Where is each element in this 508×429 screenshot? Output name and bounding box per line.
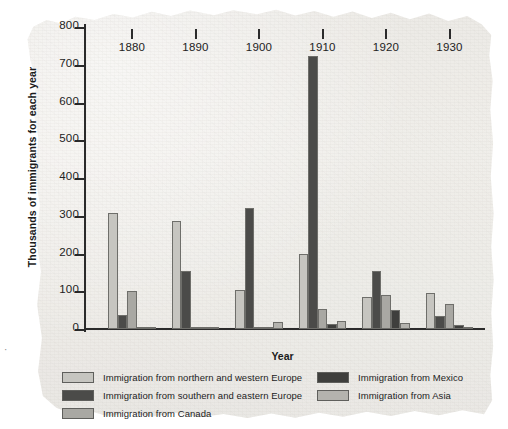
legend-swatch [62,408,94,419]
legend-label: Immigration from southern and eastern Eu… [103,390,302,401]
y-axis-title-text: Thousands of immigrants for each year [26,52,38,282]
bar [200,327,210,329]
x-tick-mark [322,29,324,39]
legend-item: Immigration from northern and western Eu… [62,369,312,385]
bar [181,271,191,330]
bar [391,310,401,329]
x-tick-mark [258,29,260,39]
legend-swatch [317,372,349,383]
bar [337,321,347,329]
legend-swatch [62,390,94,401]
y-tick-label: 100 [59,283,79,295]
legend-column-left: Immigration from northern and western Eu… [62,369,312,423]
bar [191,327,201,329]
bar [362,297,372,329]
plot-area: 0100200300400500600700800 18801890190019… [84,27,481,329]
y-tick-label: 800 [59,19,79,31]
bar [400,323,410,329]
bar [273,322,283,329]
legend-item: Immigration from Canada [62,405,312,421]
legend-label: Immigration from northern and western Eu… [103,372,302,383]
legend-label: Immigration from Asia [358,390,451,401]
legend-swatch [62,372,94,383]
x-tick-mark [131,29,133,39]
bar [327,324,337,329]
y-axis-title: Thousands of immigrants for each year [26,0,38,52]
bar [118,315,128,329]
bar [172,221,182,329]
bar [299,254,309,330]
y-tick-label: 400 [59,170,79,182]
legend-label: Immigration from Canada [103,408,211,419]
legend-column-right: Immigration from MexicoImmigration from … [317,369,487,405]
legend-label: Immigration from Mexico [358,372,463,383]
bar [445,304,455,329]
x-axis-title: Year [84,350,481,362]
y-tick-label: 500 [59,132,79,144]
stray-ink-mark: · [4,344,7,355]
legend-item: Immigration from Mexico [317,369,487,385]
bar [254,327,264,329]
bar [372,271,382,330]
bar [435,316,445,329]
y-tick-label: 0 [72,321,79,333]
x-tick-mark [385,29,387,39]
bar [464,327,474,329]
x-tick-label: 1930 [436,41,462,53]
y-tick-label: 600 [59,95,79,107]
bar [235,290,245,329]
x-tick-mark [449,29,451,39]
bar [426,293,436,329]
bar [318,309,328,329]
x-tick-label: 1880 [119,41,145,53]
x-tick-mark [195,29,197,39]
bar [210,327,220,329]
bar [454,325,464,329]
y-tick-label: 200 [59,246,79,258]
legend-swatch [317,390,349,401]
x-tick-label: 1920 [373,41,399,53]
legend-item: Immigration from Asia [317,387,487,403]
bar [137,327,147,329]
x-tick-label: 1890 [182,41,208,53]
x-tick-label: 1900 [246,41,272,53]
bar [146,327,156,329]
x-tick-label: 1910 [309,41,335,53]
y-tick-label: 700 [59,57,79,69]
bar [127,291,137,329]
y-tick-label: 300 [59,208,79,220]
bar [264,327,274,329]
bar [245,208,255,329]
bar [108,213,118,329]
bar [381,295,391,329]
legend-item: Immigration from southern and eastern Eu… [62,387,312,403]
bar [308,56,318,329]
